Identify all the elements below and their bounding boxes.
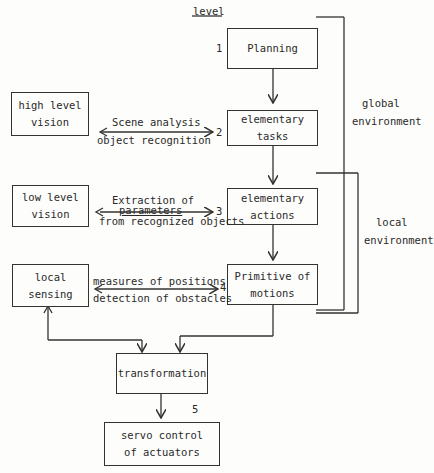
level-number-1: 1 xyxy=(216,42,222,54)
servo-control-line2: of actuators xyxy=(124,444,200,461)
primitive-motions-box: Primitive of motions xyxy=(227,264,318,305)
elementary-actions-line2: actions xyxy=(250,207,294,224)
from-recognized-objects-label: from recognized objects xyxy=(99,214,244,228)
level-heading: level xyxy=(193,4,225,18)
elementary-actions-line1: elementary xyxy=(241,190,304,207)
elementary-tasks-box: elementary tasks xyxy=(227,110,318,146)
global-label: global xyxy=(362,96,400,110)
scene-analysis-label: Scene analysis xyxy=(112,115,201,129)
global-environment-label: environment xyxy=(352,114,422,128)
low-level-vision-box: low level vision xyxy=(12,185,89,227)
local-label: local xyxy=(376,215,408,229)
high-level-vision-box: high level vision xyxy=(11,92,89,136)
detection-label: detection of obstacles xyxy=(93,291,232,305)
local-sensing-line1: local xyxy=(35,269,67,286)
measures-label: measures of positions xyxy=(93,274,226,288)
elementary-tasks-line2: tasks xyxy=(257,128,289,145)
low-level-vision-line1: low level xyxy=(22,189,79,206)
primitive-motions-line1: Primitive of xyxy=(235,268,311,285)
low-level-vision-line2: vision xyxy=(32,206,70,223)
transformation-box: transformation xyxy=(116,353,208,394)
local-sensing-box: local sensing xyxy=(12,264,89,307)
servo-control-box: servo control of actuators xyxy=(104,422,220,466)
primitive-motions-line2: motions xyxy=(250,285,294,302)
local-environment-label: environment xyxy=(364,233,434,247)
level-number-2: 2 xyxy=(216,126,222,138)
high-level-vision-line2: vision xyxy=(31,114,69,131)
high-level-vision-line1: high level xyxy=(18,97,81,114)
transformation-label: transformation xyxy=(118,365,207,382)
object-recognition-label: object recognition xyxy=(97,133,211,147)
elementary-tasks-line1: elementary xyxy=(241,111,304,128)
servo-control-line1: servo control xyxy=(121,427,203,444)
level-number-5: 5 xyxy=(192,403,198,415)
planning-box: Planning xyxy=(227,28,318,69)
local-sensing-line2: sensing xyxy=(28,286,72,303)
planning-label: Planning xyxy=(247,40,298,57)
